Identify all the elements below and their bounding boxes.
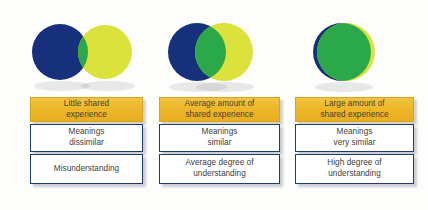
venn-little-overlap	[28, 13, 140, 93]
column-average-shared-experience: Average amount of shared experience Mean…	[159, 97, 280, 184]
circle-shadow	[315, 82, 373, 92]
meanings-box: Meanings very similar	[295, 124, 414, 152]
venn-little-overlap-svg	[28, 13, 140, 93]
meanings-label: Meanings very similar	[334, 127, 376, 148]
outcome-box: Average degree of understanding	[159, 154, 280, 184]
column-little-shared-experience: Little shared experience Meanings dissim…	[30, 97, 143, 184]
column-header-box: Average amount of shared experience	[159, 97, 280, 122]
meanings-box: Meanings similar	[159, 124, 280, 152]
column-header-box: Large amount of shared experience	[295, 97, 414, 122]
venn-average-overlap	[166, 13, 258, 93]
venn-large-overlap	[311, 13, 379, 93]
outcome-label: High degree of understanding	[327, 158, 381, 179]
circle-shadow	[196, 82, 254, 92]
column-large-shared-experience: Large amount of shared experience Meanin…	[295, 97, 414, 184]
column-header-label: Large amount of shared experience	[320, 99, 388, 120]
column-header-label: Average amount of shared experience	[185, 99, 255, 120]
venn-large-overlap-svg	[311, 13, 379, 93]
meanings-box: Meanings dissimilar	[30, 124, 143, 152]
column-header-label: Little shared experience	[64, 99, 109, 120]
shared-experience-diagram: Little shared experience Meanings dissim…	[0, 0, 428, 210]
outcome-label: Average degree of understanding	[185, 158, 253, 179]
outcome-box: Misunderstanding	[30, 154, 143, 184]
column-header-box: Little shared experience	[30, 97, 143, 122]
meanings-label: Meanings similar	[202, 127, 238, 148]
meanings-label: Meanings dissimilar	[69, 127, 105, 148]
venn-average-overlap-svg	[166, 13, 258, 93]
outcome-label: Misunderstanding	[54, 164, 119, 175]
circle-shadow	[81, 81, 135, 91]
outcome-box: High degree of understanding	[295, 154, 414, 184]
